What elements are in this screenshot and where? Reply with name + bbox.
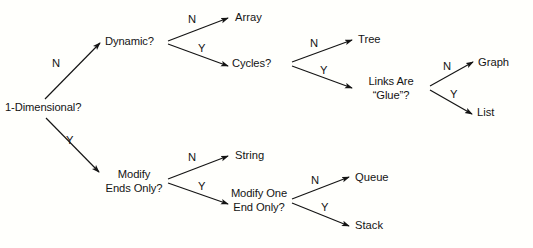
node-cycles-label: Cycles? xyxy=(232,57,271,69)
edge-glue-no xyxy=(430,62,473,86)
edge-root-no xyxy=(45,43,100,99)
node-modify-ends-line1: Modify xyxy=(100,168,168,182)
node-modify-ends: Modify Ends Only? xyxy=(100,168,168,195)
edge-label-dynamic-no: N xyxy=(188,13,196,25)
edge-label-modify-one-end-no: N xyxy=(311,174,319,186)
edge-modify-ends-no xyxy=(168,156,228,179)
edge-label-dynamic-yes: Y xyxy=(198,42,205,54)
decision-tree-diagram: 1-Dimensional? Dynamic? Cycles? Links Ar… xyxy=(0,0,533,248)
edge-label-dynamic-no-text: N xyxy=(188,13,196,25)
node-links-are-glue: Links Are “Glue”? xyxy=(355,75,427,102)
node-root: 1-Dimensional? xyxy=(5,101,81,114)
edge-modify-one-end-no xyxy=(292,177,349,199)
edge-label-root-yes: Y xyxy=(66,134,73,146)
node-modify-one-end-line2: End Only? xyxy=(226,201,292,215)
leaf-array-label: Array xyxy=(235,11,262,23)
edge-label-modify-ends-no-text: N xyxy=(188,151,196,163)
node-cycles: Cycles? xyxy=(232,57,271,70)
edge-label-modify-ends-no: N xyxy=(188,151,196,163)
leaf-string-label: String xyxy=(235,149,264,161)
edge-label-glue-yes: Y xyxy=(450,88,457,100)
node-links-are-glue-line1: Links Are xyxy=(355,75,427,89)
leaf-queue-label: Queue xyxy=(355,171,389,183)
edge-label-glue-yes-text: Y xyxy=(450,88,457,100)
edge-label-root-no: N xyxy=(52,57,60,69)
node-dynamic-label: Dynamic? xyxy=(105,35,154,47)
edge-dynamic-no xyxy=(168,18,228,41)
leaf-queue: Queue xyxy=(355,171,389,183)
edge-label-cycles-no: N xyxy=(310,37,318,49)
node-modify-one-end: Modify One End Only? xyxy=(226,187,292,214)
edge-label-modify-one-end-yes: Y xyxy=(321,201,328,213)
node-modify-one-end-line1: Modify One xyxy=(226,187,292,201)
edge-label-root-yes-text: Y xyxy=(66,134,73,146)
leaf-array: Array xyxy=(235,11,262,23)
edge-label-dynamic-yes-text: Y xyxy=(198,42,205,54)
edge-label-cycles-yes-text: Y xyxy=(320,64,327,76)
leaf-tree-label: Tree xyxy=(358,33,381,45)
leaf-graph: Graph xyxy=(478,56,509,68)
leaf-list-label: List xyxy=(477,106,494,118)
leaf-stack: Stack xyxy=(355,219,383,231)
edge-label-cycles-no-text: N xyxy=(310,37,318,49)
edge-label-cycles-yes: Y xyxy=(320,64,327,76)
edge-label-modify-one-end-no-text: N xyxy=(311,174,319,186)
leaf-string: String xyxy=(235,149,264,161)
node-dynamic: Dynamic? xyxy=(105,35,154,48)
node-links-are-glue-line2: “Glue”? xyxy=(355,89,427,103)
leaf-stack-label: Stack xyxy=(355,219,383,231)
node-modify-ends-line2: Ends Only? xyxy=(100,182,168,196)
node-root-label: 1-Dimensional? xyxy=(5,101,81,113)
leaf-graph-label: Graph xyxy=(478,56,509,68)
leaf-list: List xyxy=(477,106,494,118)
edge-label-root-no-text: N xyxy=(52,57,60,69)
edge-label-glue-no: N xyxy=(443,60,451,72)
edge-cycles-no xyxy=(292,40,352,62)
edge-label-modify-one-end-yes-text: Y xyxy=(321,201,328,213)
leaf-tree: Tree xyxy=(358,33,381,45)
edge-label-modify-ends-yes-text: Y xyxy=(198,180,205,192)
edge-label-modify-ends-yes: Y xyxy=(198,180,205,192)
edge-label-glue-no-text: N xyxy=(443,60,451,72)
